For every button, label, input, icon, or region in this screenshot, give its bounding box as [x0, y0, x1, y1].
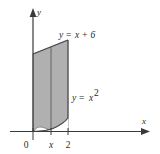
line-label-lhs: y — [58, 30, 64, 40]
x-axis-label: x — [141, 116, 146, 126]
parabola-label-group: y = x 2 — [71, 88, 99, 103]
shaded-region — [33, 40, 68, 131]
figure-container: y x 0 x 2 y = x + 6 y = x 2 — [0, 0, 160, 154]
line-label-equals: = — [66, 30, 71, 40]
origin-label: 0 — [24, 140, 29, 150]
tick-label-2: 2 — [66, 140, 71, 150]
shaded-region-group — [33, 40, 68, 131]
y-axis-label: y — [36, 7, 41, 17]
plot-canvas: y x 0 x 2 y = x + 6 y = x 2 — [0, 0, 160, 154]
x-axis-arrowhead — [141, 128, 150, 135]
tick-label-x: x — [48, 140, 54, 150]
line-label-rhs: x + 6 — [74, 30, 95, 40]
line-label-group: y = x + 6 — [58, 30, 95, 40]
parabola-label-exponent: 2 — [94, 88, 99, 98]
parabola-label-lhs: y — [71, 93, 77, 103]
y-axis-arrowhead — [30, 8, 37, 17]
parabola-label-equals: = — [79, 93, 84, 103]
